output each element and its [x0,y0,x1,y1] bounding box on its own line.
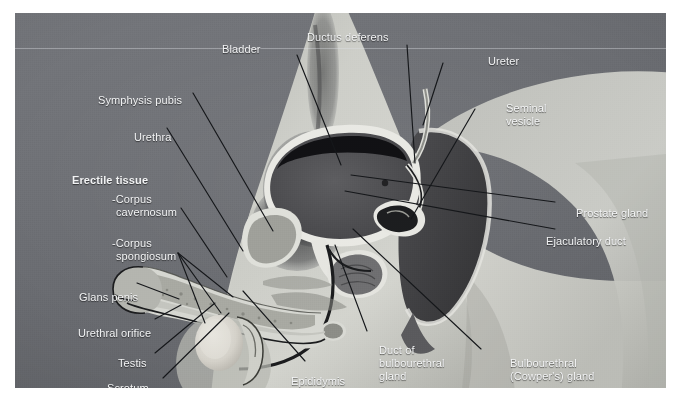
label-corpus-spongiosum-line2: spongiosum [116,250,176,263]
label-seminal-vesicle-line2: vesicle [506,115,540,128]
label-glans-penis: Glans penis [79,291,138,304]
label-urethra: Urethra [134,131,171,144]
label-duct-bulbourethral-line2: bulbourethral [379,357,445,370]
label-testis: Testis [118,357,147,370]
label-scrotum: Scrotum [107,382,149,388]
anatomical-illustration: Bladder Ductus deferens Ureter Seminal v… [15,13,666,388]
registration-line [15,48,666,49]
label-seminal-vesicle-line1: Seminal [506,102,546,115]
label-erectile-tissue: Erectile tissue [72,174,148,187]
label-bulbourethral-line2: (Cowper's) gland [510,370,594,383]
label-corpus-cavernosum-line1: -Corpus [112,193,152,206]
label-corpus-spongiosum-line1: -Corpus [112,237,152,250]
label-epididymis: Epididymis [291,375,345,388]
label-urethral-orifice: Urethral orifice [78,327,151,340]
label-ureter: Ureter [488,55,519,68]
label-corpus-cavernosum-line2: cavernosum [116,206,177,219]
anatomy-figure-page: Bladder Ductus deferens Ureter Seminal v… [0,0,680,402]
label-bladder: Bladder [222,43,261,56]
prostate-gland [327,250,387,298]
label-duct-bulbourethral-line1: Duct of [379,344,415,357]
label-symphysis-pubis: Symphysis pubis [98,94,182,107]
label-prostate-gland: Prostate gland [576,207,648,220]
label-duct-bulbourethral-line3: gland [379,370,406,383]
label-bulbourethral-line1: Bulbourethral [510,357,577,370]
label-ejaculatory-duct: Ejaculatory duct [546,235,626,248]
label-ductus-deferens: Ductus deferens [307,31,389,44]
